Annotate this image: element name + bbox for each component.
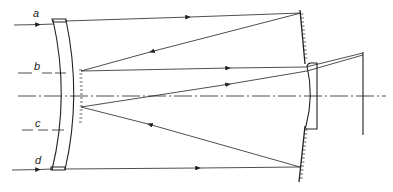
- corrector-meniscus-lens: [51, 19, 74, 170]
- label-a: a: [33, 7, 39, 19]
- optical-diagram: a b c d: [0, 0, 393, 192]
- label-d: d: [35, 154, 42, 166]
- label-c: c: [35, 117, 41, 129]
- label-b: b: [34, 60, 40, 72]
